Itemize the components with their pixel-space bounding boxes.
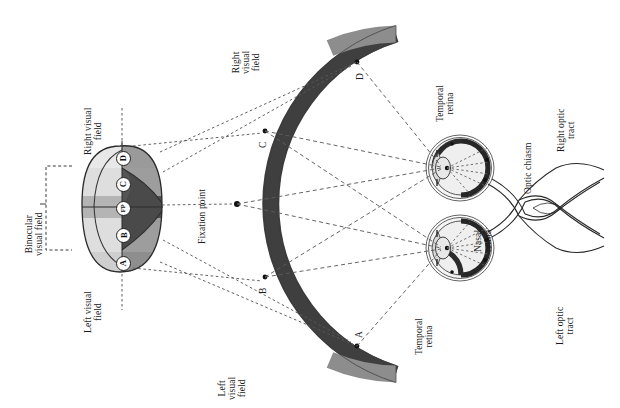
label-temporal-retina-bottom: Temporal retina	[415, 318, 435, 355]
field-point-c: C	[116, 177, 131, 192]
label-binocular-visual-field: Binocular visual field	[25, 212, 45, 256]
binocular-field-bracket	[46, 166, 72, 250]
label-right-visual-field-oval: Right visual field	[84, 108, 104, 155]
arc-label-c: C	[259, 142, 269, 148]
label-fixation-point: Fixation point	[198, 189, 208, 244]
field-projection-rays	[133, 62, 357, 346]
label-temporal-retina-top: Temporal retina	[436, 85, 456, 122]
arc-label-a: A	[355, 331, 365, 338]
label-left-optic-tract: Left optic tract	[556, 307, 576, 345]
label-optic-chiasm: Optic chiasm	[524, 142, 534, 194]
field-point-b-label: B	[119, 233, 128, 239]
field-point-fp: FP	[116, 201, 131, 216]
field-point-c-label: C	[119, 181, 128, 187]
figure-canvas: Right visual field Left visual field Bin…	[0, 0, 620, 408]
visual-pathway-artwork	[0, 0, 620, 408]
eye-top	[426, 135, 525, 216]
field-point-d: D	[116, 151, 131, 166]
field-point-a-label: A	[119, 260, 128, 266]
field-point-b: B	[116, 228, 131, 243]
label-left-visual-field-arc: Left visual field	[218, 377, 248, 400]
field-point-fp-label: FP	[120, 205, 127, 213]
arc-label-d: D	[356, 73, 366, 80]
arc-label-b: B	[259, 288, 269, 294]
label-left-visual-field-oval: Left visual field	[84, 291, 104, 333]
label-nasal-retina: Nasal retina	[474, 230, 494, 252]
field-point-a: A	[116, 256, 131, 271]
label-right-optic-tract: Right optic tract	[557, 108, 577, 152]
field-point-d-label: D	[119, 155, 128, 161]
visual-field-arc	[264, 26, 396, 383]
label-right-visual-field-arc: Right visual field	[232, 51, 262, 74]
